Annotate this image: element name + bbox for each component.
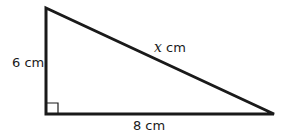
vertical-side-label: 6 cm — [12, 55, 44, 70]
right-triangle-diagram: 6 cm x cm 8 cm — [0, 0, 287, 134]
hypotenuse-label: x cm — [154, 39, 186, 55]
hypotenuse-unit: cm — [162, 40, 186, 55]
horizontal-side-label: 8 cm — [133, 118, 165, 133]
hypotenuse-variable: x — [154, 39, 162, 55]
triangle-shape — [46, 8, 274, 114]
right-angle-marker — [46, 103, 58, 114]
